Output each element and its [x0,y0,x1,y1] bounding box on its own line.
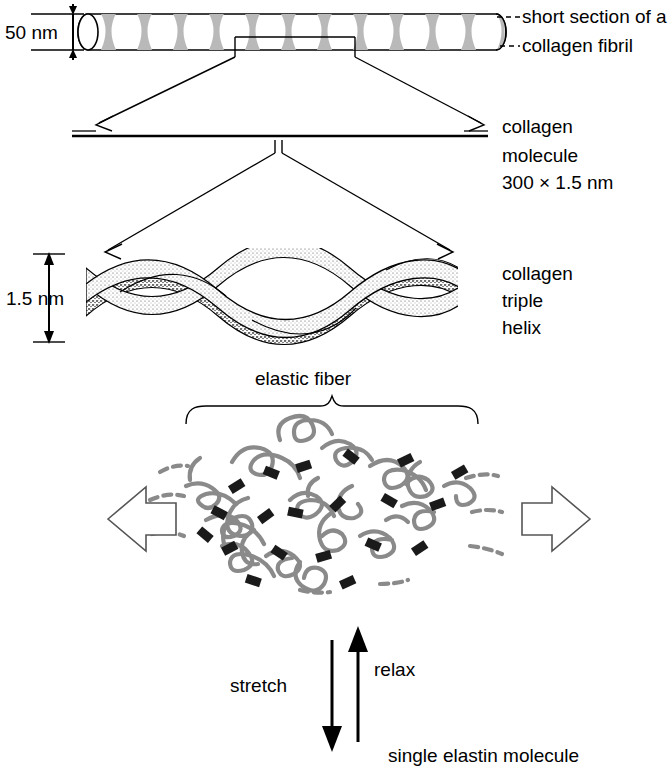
helix-width-label: 1.5 nm [6,288,64,309]
helix-label-line2: triple [502,290,543,311]
helix-width-dimension: 1.5 nm [6,252,65,344]
collagen-elastin-diagram: 50 nm short section of a collagen fibril… [0,0,668,775]
collagen-fibril-cylinder [78,12,510,52]
collagen-triple-helix [86,240,466,345]
fibril-to-molecule-expansion [96,37,484,131]
molecule-label-line2: molecule [502,145,578,166]
fibril-left-end [78,14,98,50]
helix-label-line3: helix [502,317,542,338]
helix-label-line1: collagen [502,263,573,284]
stretch-relax-arrows [322,626,368,752]
relax-label: relax [374,659,416,680]
elastin-network [150,416,502,593]
stretch-arrow-right [522,487,590,551]
diagram-canvas: 50 nm short section of a collagen fibril… [0,0,668,775]
molecule-label-line1: collagen [502,116,573,137]
stretch-label: stretch [230,675,287,696]
fibril-label-line2: collagen fibril [522,35,633,56]
molecule-label-line3: 300 × 1.5 nm [502,172,613,193]
elastic-fiber-brace [186,396,478,424]
fibril-label-line1: short section of a [522,6,667,27]
elastic-fiber-label: elastic fiber [255,368,352,389]
single-elastin-molecule-label: single elastin molecule [388,745,579,766]
molecule-to-helix-expansion [105,140,453,259]
fibril-diameter-label: 50 nm [5,22,58,43]
fibril-diameter-dimension: 50 nm [5,4,84,60]
collagen-molecule-rod [72,131,488,136]
